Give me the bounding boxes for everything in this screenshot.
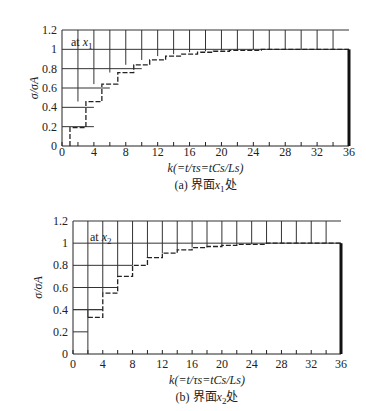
x-tick-label: 8	[123, 145, 129, 159]
y-tick-label: 0.2	[42, 120, 57, 134]
y-tick-label: 0.8	[42, 62, 57, 76]
x-tick-label: 24	[247, 145, 259, 159]
x-axis-label: k(=t/τs=tCs/Ls)	[169, 373, 245, 387]
y-tick-label: 0.6	[53, 281, 68, 295]
x-tick-label: 28	[275, 357, 287, 371]
y-axis-label: σ/σA	[27, 76, 41, 99]
y-tick-label: 0.4	[53, 303, 68, 317]
x-tick-label: 20	[215, 145, 227, 159]
x-tick-label: 4	[91, 145, 97, 159]
y-tick-label: 0.8	[53, 258, 68, 272]
y-tick-label: 1.2	[53, 214, 68, 228]
x-tick-label: 36	[335, 357, 347, 371]
x-tick-label: 0	[70, 357, 76, 371]
figure: 0481216202428323600.20.40.60.811.2at x1σ…	[0, 0, 366, 411]
step-curve	[70, 49, 349, 146]
y-tick-label: 0	[62, 347, 68, 361]
y-axis-label: σ/σA	[31, 276, 45, 299]
x-tick-label: 8	[130, 357, 136, 371]
caption: (b) 界面x2处	[176, 390, 239, 406]
chart-b: 0481216202428323600.20.40.60.811.2at x2σ…	[31, 214, 347, 406]
x-tick-label: 20	[216, 357, 228, 371]
y-tick-label: 0.4	[42, 100, 57, 114]
caption: (a) 界面x1处	[174, 178, 236, 194]
x-tick-label: 28	[279, 145, 291, 159]
x-tick-label: 32	[305, 357, 317, 371]
x-tick-label: 36	[343, 145, 355, 159]
annotation: at x2	[90, 230, 112, 246]
x-tick-label: 32	[311, 145, 323, 159]
x-tick-label: 16	[184, 145, 196, 159]
x-axis-label: k(=t/τs=tCs/Ls)	[168, 161, 244, 175]
y-tick-label: 1	[62, 236, 68, 250]
x-tick-label: 12	[152, 145, 164, 159]
annotation: at x1	[71, 35, 93, 51]
y-tick-label: 0	[51, 139, 57, 153]
x-tick-label: 0	[59, 145, 65, 159]
x-tick-label: 12	[156, 357, 168, 371]
x-tick-label: 16	[186, 357, 198, 371]
x-tick-label: 4	[100, 357, 106, 371]
y-tick-label: 0.2	[53, 325, 68, 339]
chart-a: 0481216202428323600.20.40.60.811.2at x1σ…	[27, 23, 355, 194]
y-tick-label: 0.6	[42, 81, 57, 95]
x-tick-label: 24	[246, 357, 258, 371]
y-tick-label: 1	[51, 42, 57, 56]
y-tick-label: 1.2	[42, 23, 57, 37]
step-curve	[88, 243, 341, 317]
